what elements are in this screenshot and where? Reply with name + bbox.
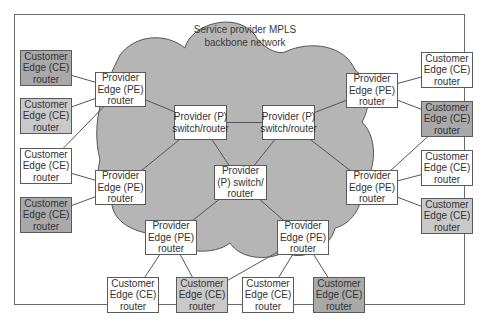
customer-edge-router-ce-r1: CustomerEdge (CE)router [421, 52, 473, 88]
node-label-line: Provider [353, 170, 390, 182]
mpls-network-diagram: Service provider MPLS backbone network C… [0, 0, 490, 330]
node-label-line: router [158, 243, 184, 255]
node-label-line: Provider [102, 72, 139, 84]
provider-edge-router-pe-r1: ProviderEdge (PE)router [346, 73, 398, 108]
cloud-label-line-1: Service provider MPLS [170, 23, 320, 36]
node-label-line: router [120, 301, 146, 313]
node-label-line: Provider [152, 220, 189, 232]
customer-edge-router-ce-b1: CustomerEdge (CE)router [107, 277, 159, 313]
node-label-line: Customer [24, 99, 67, 111]
provider-edge-router-pe-r2: ProviderEdge (PE)router [346, 170, 398, 205]
node-label-line: router [434, 222, 460, 234]
node-label-line: Edge (CE) [23, 62, 70, 74]
node-label-line: Edge (PE) [349, 182, 395, 194]
node-label-line: router [107, 193, 133, 205]
node-label-line: (P) switch/ [217, 177, 264, 189]
node-label-line: Customer [24, 51, 67, 63]
node-label-line: Edge (CE) [23, 209, 70, 221]
node-label-line: Edge (CE) [424, 162, 471, 174]
node-label-line: router [434, 76, 460, 88]
customer-edge-router-ce-b4: CustomerEdge (CE)router [313, 277, 365, 313]
customer-edge-router-ce-r4: CustomerEdge (CE)router [421, 198, 473, 234]
provider-edge-router-pe-b2: ProviderEdge (PE)router [277, 220, 329, 255]
customer-edge-router-ce-r2: CustomerEdge (CE)router [421, 101, 473, 137]
node-label-line: Edge (CE) [179, 289, 226, 301]
node-label-line: Edge (PE) [97, 84, 143, 96]
node-label-line: router [33, 122, 59, 134]
node-label-line: Edge (CE) [424, 210, 471, 222]
node-label-line: Provider [102, 170, 139, 182]
node-label-line: Provider (P) [262, 111, 315, 123]
node-label-line: Customer [24, 149, 67, 161]
cloud-shape [97, 22, 374, 257]
node-label-line: Edge (CE) [245, 289, 292, 301]
node-label-line: Edge (CE) [316, 289, 363, 301]
customer-edge-router-ce-l2: CustomerEdge (CE)router [20, 98, 72, 134]
node-label-line: router [326, 301, 352, 313]
node-label-line: Customer [246, 278, 289, 290]
customer-edge-router-ce-l4: CustomerEdge (CE)router [20, 197, 72, 233]
node-label-line: Customer [425, 53, 468, 65]
provider-switch-router-p-2: Provider (P)switch/router [262, 105, 315, 140]
node-label-line: Edge (CE) [23, 110, 70, 122]
node-label-line: router [33, 74, 59, 86]
node-label-line: router [189, 301, 215, 313]
node-label-line: router [290, 243, 316, 255]
node-label-line: router [33, 221, 59, 233]
node-label-line: router [255, 301, 281, 313]
node-label-line: Edge (PE) [148, 232, 194, 244]
node-label-line: Customer [180, 278, 223, 290]
node-label-line: Customer [425, 199, 468, 211]
node-label-line: Edge (PE) [349, 85, 395, 97]
node-label-line: router [107, 95, 133, 107]
node-label-line: router [33, 172, 59, 184]
cloud-label: Service provider MPLS backbone network [170, 23, 320, 49]
node-label-line: Customer [24, 198, 67, 210]
cloud-label-line-2: backbone network [170, 36, 320, 49]
node-label-line: router [434, 125, 460, 137]
node-label-line: router [227, 188, 253, 200]
node-label-line: Customer [425, 151, 468, 163]
node-label-line: Edge (PE) [97, 182, 143, 194]
customer-edge-router-ce-l3: CustomerEdge (CE)router [20, 148, 72, 184]
node-label-line: Provider [222, 165, 259, 177]
node-label-line: Provider [284, 220, 321, 232]
node-label-line: switch/router [260, 123, 317, 135]
provider-edge-router-pe-l2: ProviderEdge (PE)router [95, 170, 146, 205]
node-label-line: Customer [111, 278, 154, 290]
customer-edge-router-ce-b3: CustomerEdge (CE)router [242, 277, 294, 313]
node-label-line: Customer [317, 278, 360, 290]
node-label-line: router [359, 193, 385, 205]
node-label-line: Edge (CE) [424, 64, 471, 76]
node-label-line: Customer [425, 102, 468, 114]
node-label-line: Edge (CE) [110, 289, 157, 301]
customer-edge-router-ce-b2: CustomerEdge (CE)router [176, 277, 228, 313]
node-label-line: Edge (CE) [23, 160, 70, 172]
customer-edge-router-ce-l1: CustomerEdge (CE)router [20, 50, 72, 86]
node-label-line: router [359, 96, 385, 108]
node-label-line: Provider (P) [174, 111, 227, 123]
node-label-line: Provider [353, 73, 390, 85]
node-label-line: Edge (CE) [424, 113, 471, 125]
node-label-line: Edge (PE) [280, 232, 326, 244]
provider-switch-router-p-3: Provider(P) switch/router [214, 165, 267, 200]
node-label-line: router [434, 174, 460, 186]
customer-edge-router-ce-r3: CustomerEdge (CE)router [421, 150, 473, 186]
provider-switch-router-p-1: Provider (P)switch/router [174, 105, 227, 140]
node-label-line: switch/router [172, 123, 229, 135]
provider-edge-router-pe-l1: ProviderEdge (PE)router [95, 72, 146, 107]
provider-edge-router-pe-b1: ProviderEdge (PE)router [145, 220, 197, 255]
